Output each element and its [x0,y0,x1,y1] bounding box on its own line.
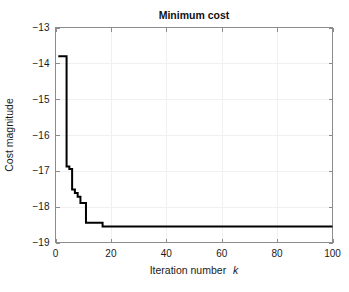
y-tick-label: −17 [33,165,50,176]
y-tick-label: −14 [33,58,50,69]
chart-title: Minimum cost [159,9,230,21]
figure-canvas: −19−18−17−16−15−14−13 020406080100 Minim… [0,0,349,292]
grid-lines [56,28,333,243]
y-tick-label: −16 [33,130,50,141]
x-tick-label: 0 [53,248,59,259]
y-tick-label: −19 [33,237,50,248]
x-tick-label: 60 [216,248,228,259]
x-axis-title-italic-k: k [233,264,239,276]
x-axis-title: Iteration number k [150,264,239,276]
data-series [58,56,332,226]
y-tick-label: −15 [33,94,50,105]
x-tick-labels: 020406080100 [53,248,342,259]
x-tick-label: 40 [161,248,173,259]
x-tick-label: 20 [105,248,117,259]
cost-curve [58,56,332,226]
x-axis-title-main: Iteration number [150,264,227,276]
y-tick-label: −18 [33,201,50,212]
y-tick-label: −13 [33,22,50,33]
x-tick-label: 80 [272,248,284,259]
x-tick-label: 100 [324,248,341,259]
y-axis-title: Cost magnitude [3,98,15,172]
y-tick-labels: −19−18−17−16−15−14−13 [33,22,50,248]
minimum-cost-chart: −19−18−17−16−15−14−13 020406080100 Minim… [0,0,349,292]
